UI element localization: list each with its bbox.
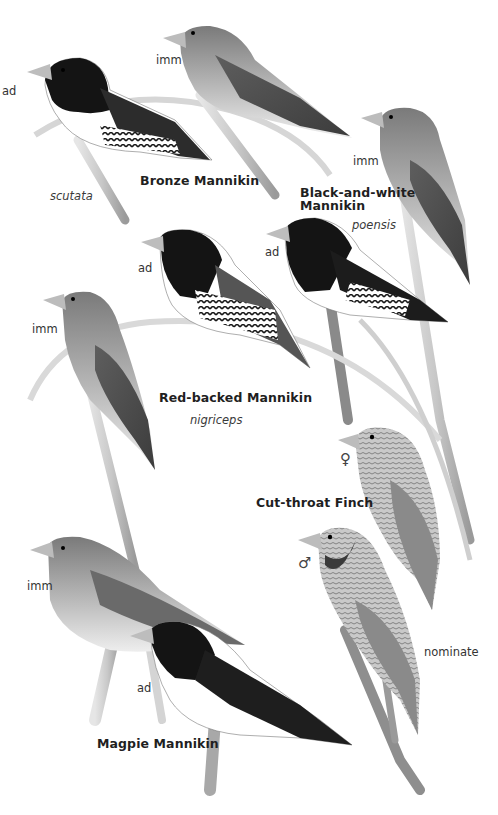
figure-label-bronze-imm: imm [156,54,182,67]
subspecies-poensis: poensis [352,219,396,232]
figure-label-bronze-ad: ad [2,85,16,98]
bird-magpie-mannikin-ad [130,622,352,745]
species-name-magpie-mannikin: Magpie Mannikin [97,737,219,750]
species-name-red-backed-mannikin: Red-backed Mannikin [159,391,312,404]
figure-label-black-and-white-imm: imm [353,155,379,168]
bird-red-backed-mannikin-ad [141,230,310,368]
subspecies-nigriceps: nigriceps [190,414,242,427]
subspecies-scutata: scutata [50,190,93,203]
illustration-plate [0,0,498,815]
bird-red-backed-mannikin-imm [43,292,155,470]
figure-label-red-backed-imm: imm [32,323,58,336]
species-name-bronze-mannikin: Bronze Mannikin [140,174,259,187]
species-name-cut-throat-finch: Cut-throat Finch [256,496,373,509]
bird-black-and-white-mannikin-ad [266,218,448,322]
figure-label-red-backed-ad: ad [138,262,152,275]
figure-label-magpie-ad: ad [137,682,151,695]
figure-label-black-and-white-ad: ad [265,246,279,259]
subspecies-nominate: nominate [424,646,479,659]
species-name-black-and-white-mannikin-line2: Mannikin [300,199,365,212]
bird-bronze-mannikin-ad [27,58,212,160]
figure-label-magpie-imm: imm [27,580,53,593]
figure-label-cut-throat-male: ♂ [298,557,311,570]
figure-label-cut-throat-female: ♀ [340,453,351,466]
